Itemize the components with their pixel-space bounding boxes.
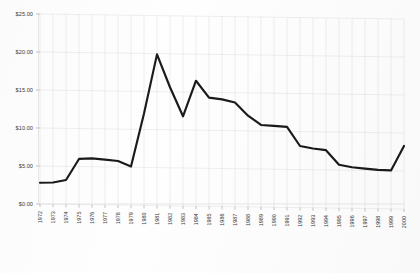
x-axis-tick-label: 1993 (310, 215, 316, 227)
x-axis-tick-label: 1999 (388, 216, 394, 228)
x-axis-tick-label: 1986 (219, 214, 225, 226)
gridlines-group (40, 14, 404, 209)
x-axis-tick-label: 1979 (128, 212, 134, 224)
x-axis-tick-label: 1989 (258, 214, 264, 226)
x-axis-tick-label: 1984 (193, 213, 199, 225)
line-chart-svg: $0.00$5.00$10.00$15.00$20.00$25.00 19721… (0, 0, 420, 273)
x-axis-tick-label: 1983 (180, 213, 186, 225)
x-axis-tick-label: 1975 (76, 212, 82, 224)
x-axis-tick-label: 1988 (245, 214, 251, 226)
y-axis-labels-group: $0.00$5.00$10.00$15.00$20.00$25.00 (16, 11, 33, 207)
x-axis-tick-label: 1990 (271, 214, 277, 226)
y-axis-tick-label: $10.00 (16, 125, 33, 131)
chart-container: $0.00$5.00$10.00$15.00$20.00$25.00 19721… (0, 0, 420, 273)
x-axis-tick-label: 1991 (284, 214, 290, 226)
x-axis-tick-label: 1982 (167, 213, 173, 225)
y-axis-tick-label: $20.00 (16, 49, 33, 55)
x-axis-tick-label: 1995 (336, 215, 342, 227)
x-axis-tick-label: 1994 (323, 215, 329, 227)
y-axis-tick-label: $0.00 (19, 201, 33, 207)
x-axis-tick-label: 1980 (141, 212, 147, 224)
x-axis-tick-label: 1997 (362, 215, 368, 227)
x-axis-labels-group: 1972197319741975197619771978197919801981… (37, 211, 407, 228)
x-axis-tick-label: 1996 (349, 215, 355, 227)
y-axis-tick-label: $25.00 (16, 11, 33, 17)
x-axis-tick-label: 1974 (63, 211, 69, 223)
x-axis-tick-label: 1976 (89, 212, 95, 224)
x-axis-tick-label: 1972 (37, 211, 43, 223)
x-axis-tick-label: 1978 (115, 212, 121, 224)
y-axis-tick-label: $15.00 (16, 87, 33, 93)
x-axis-tick-label: 1985 (206, 213, 212, 225)
x-axis-tick-label: 1977 (102, 212, 108, 224)
x-axis-tick-label: 1992 (297, 215, 303, 227)
x-axis-tick-label: 1981 (154, 213, 160, 225)
axis-ticks-group (36, 14, 404, 212)
x-axis-tick-label: 1998 (375, 216, 381, 228)
x-axis-tick-label: 1987 (232, 214, 238, 226)
chart-plot-area: $0.00$5.00$10.00$15.00$20.00$25.00 19721… (0, 0, 420, 273)
x-axis-tick-label: 1973 (50, 211, 56, 223)
x-axis-tick-label: 2000 (401, 216, 407, 228)
y-axis-tick-label: $5.00 (19, 163, 33, 169)
